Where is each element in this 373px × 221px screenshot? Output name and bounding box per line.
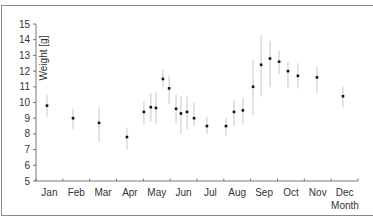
x-axis-title: Month — [331, 200, 359, 211]
data-point — [297, 75, 300, 78]
data-point — [72, 117, 75, 120]
data-point — [269, 57, 272, 60]
data-point — [287, 70, 290, 73]
y-tick-label: 12 — [19, 66, 31, 77]
data-point — [206, 125, 209, 128]
data-point — [150, 106, 153, 109]
x-tick-label: Feb — [68, 187, 86, 198]
data-point — [180, 112, 183, 115]
y-axis-title: Weight [g] — [38, 35, 49, 80]
data-point — [98, 122, 101, 125]
data-marks — [46, 35, 345, 150]
data-point — [143, 111, 146, 114]
y-tick-label: 6 — [24, 160, 30, 171]
data-point — [168, 87, 171, 90]
data-point — [316, 76, 319, 79]
data-point — [260, 64, 263, 67]
x-tick-label: May — [147, 187, 166, 198]
x-tick-label: Oct — [283, 187, 299, 198]
x-axis: JanFebMarAprMayJunJulAugSepOctNovDec — [36, 179, 358, 199]
x-tick-label: Mar — [94, 187, 112, 198]
x-tick-label: Sep — [255, 187, 273, 198]
data-point — [126, 136, 129, 139]
data-point — [252, 86, 255, 89]
y-tick-label: 9 — [24, 113, 30, 124]
data-point — [278, 60, 281, 63]
y-axis: 56789101112131415 — [19, 19, 36, 187]
data-point — [186, 111, 189, 114]
y-tick-label: 8 — [24, 128, 30, 139]
x-tick-label: Apr — [122, 187, 138, 198]
data-point — [233, 111, 236, 114]
data-point — [342, 95, 345, 98]
x-tick-label: Dec — [336, 187, 354, 198]
data-point — [193, 117, 196, 120]
y-tick-label: 14 — [19, 34, 31, 45]
x-tick-label: Aug — [228, 187, 246, 198]
y-tick-label: 7 — [24, 144, 30, 155]
y-tick-label: 11 — [20, 81, 31, 92]
y-tick-label: 10 — [19, 97, 31, 108]
data-point — [155, 107, 158, 110]
x-tick-label: Jul — [204, 187, 217, 198]
y-tick-label: 5 — [24, 176, 30, 187]
data-point — [162, 78, 165, 81]
x-tick-label: Jun — [176, 187, 192, 198]
x-tick-label: Jan — [41, 187, 57, 198]
data-point — [242, 109, 245, 112]
data-point — [175, 107, 178, 110]
data-point — [225, 125, 228, 128]
y-tick-label: 15 — [19, 19, 31, 30]
data-point — [46, 104, 49, 107]
x-tick-label: Nov — [309, 187, 327, 198]
y-tick-label: 13 — [19, 50, 31, 61]
